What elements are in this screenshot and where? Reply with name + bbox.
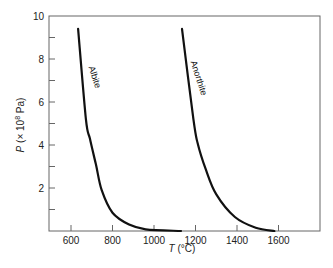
y-tick-label: 4 xyxy=(38,140,44,151)
y-tick-label: 10 xyxy=(33,11,45,22)
x-tick-label: 1600 xyxy=(267,235,290,246)
x-tick-label: 600 xyxy=(63,235,80,246)
phase-diagram: 6008001000120014001600 246810 T (°C) P (… xyxy=(0,0,333,268)
y-axis: 246810 xyxy=(33,11,55,210)
y-tick-label: 6 xyxy=(38,97,44,108)
y-tick-label: 8 xyxy=(38,54,44,65)
x-axis-title: T (°C) xyxy=(169,243,196,254)
albite-curve xyxy=(78,29,181,231)
curves xyxy=(78,29,274,231)
y-axis-title: P (× 108 Pa) xyxy=(14,98,26,153)
y-tick-label: 2 xyxy=(38,183,44,194)
x-tick-label: 800 xyxy=(104,235,121,246)
anorthite-label: Anorthite xyxy=(189,59,210,96)
x-tick-label: 1400 xyxy=(226,235,249,246)
x-tick-label: 1000 xyxy=(143,235,166,246)
albite-label: Albite xyxy=(87,65,103,90)
